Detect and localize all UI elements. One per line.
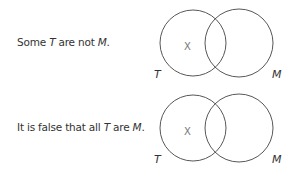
label-m: M [272,68,282,81]
circle-t [160,95,226,161]
label-m: M [272,153,282,166]
x-mark: X [184,41,191,52]
venn-diagram-2: X T M [154,94,282,166]
label-t: T [154,153,162,166]
x-mark: X [184,126,191,137]
circle-m [205,94,273,162]
label-t: T [154,68,162,81]
circle-m [205,9,273,77]
circle-t [160,10,226,76]
venn-diagrams: X T M X T M [0,0,298,173]
venn-diagram-1: X T M [154,9,282,81]
